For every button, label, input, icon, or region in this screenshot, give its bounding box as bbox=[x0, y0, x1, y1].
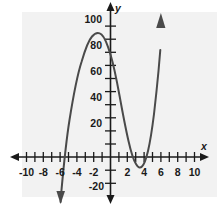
cubic-function-graph-figure: -10 -8 -6 -4 -2 2 4 6 8 10 100 80 60 40 … bbox=[0, 0, 217, 206]
y-tick-label-80: 80 bbox=[90, 39, 102, 51]
y-tick-label-60: 60 bbox=[90, 65, 102, 77]
x-axis-left-arrow-icon bbox=[10, 153, 19, 161]
x-axis-name-label: x bbox=[200, 140, 208, 152]
x-tick-label--6: -6 bbox=[55, 166, 64, 178]
y-axis bbox=[107, 2, 115, 204]
y-tick-label-40: 40 bbox=[90, 91, 102, 103]
y-tick-label-20: 20 bbox=[90, 117, 102, 129]
x-axis bbox=[10, 153, 209, 161]
x-tick-label-2: 2 bbox=[124, 166, 130, 178]
x-tick-label-4: 4 bbox=[141, 166, 147, 178]
x-tick-label-6: 6 bbox=[158, 166, 164, 178]
graph-canvas: -10 -8 -6 -4 -2 2 4 6 8 10 100 80 60 40 … bbox=[0, 0, 217, 206]
x-tick-label--4: -4 bbox=[72, 166, 81, 178]
x-tick-label-8: 8 bbox=[175, 166, 181, 178]
y-axis-top-arrow-icon bbox=[107, 2, 115, 11]
curve-left-arrow-icon bbox=[56, 191, 65, 204]
y-tick-label--20: -20 bbox=[89, 180, 104, 192]
x-tick-label--10: -10 bbox=[19, 166, 34, 178]
x-tick-label--8: -8 bbox=[39, 166, 48, 178]
x-tick-label-10: 10 bbox=[189, 166, 201, 178]
y-tick-label-100: 100 bbox=[84, 13, 102, 25]
x-axis-right-arrow-icon bbox=[200, 153, 209, 161]
x-tick-label--2: -2 bbox=[89, 166, 98, 178]
curve-right-arrow-icon bbox=[156, 13, 165, 28]
y-axis-bottom-arrow-icon bbox=[107, 195, 115, 204]
y-axis-name-label: y bbox=[114, 2, 122, 14]
